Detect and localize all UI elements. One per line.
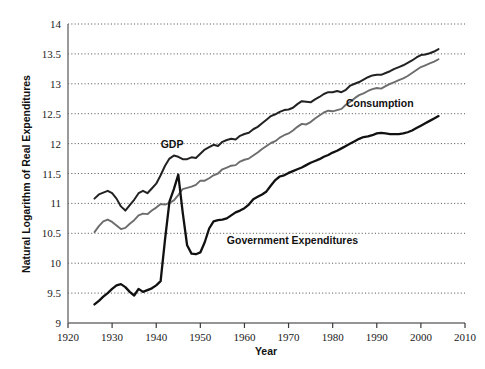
x-tick-label: 2010 bbox=[454, 331, 477, 343]
series-label-gdp: GDP bbox=[161, 138, 184, 150]
y-axis-title: Natural Logarithm of Real Expenditures bbox=[20, 75, 32, 273]
y-tick-label: 11 bbox=[50, 197, 61, 209]
x-tick-label: 1950 bbox=[189, 331, 212, 343]
axis-ticks-group bbox=[68, 323, 465, 328]
x-tick-label: 1930 bbox=[101, 331, 124, 343]
y-tick-label: 14 bbox=[50, 18, 62, 30]
series-annotations-group: GDPConsumptionGovernment Expenditures bbox=[161, 97, 414, 247]
y-tick-label: 11.5 bbox=[42, 168, 61, 180]
y-tick-label: 12.5 bbox=[42, 108, 62, 120]
series-line-gdp bbox=[94, 49, 438, 210]
y-tick-labels-group: 99.51010.51111.51212.51313.514 bbox=[42, 18, 62, 329]
x-tick-label: 1920 bbox=[57, 331, 80, 343]
series-line-consumption bbox=[94, 59, 438, 232]
y-tick-label: 10 bbox=[50, 257, 62, 269]
series-label-government-expenditures: Government Expenditures bbox=[227, 234, 358, 246]
chart-figure: 99.51010.51111.51212.51313.514 192019301… bbox=[0, 0, 485, 369]
data-series-group bbox=[94, 49, 438, 304]
chart-canvas: 99.51010.51111.51212.51313.514 192019301… bbox=[0, 0, 485, 369]
x-axis-title: Year bbox=[255, 345, 277, 357]
y-tick-label: 12 bbox=[50, 138, 61, 150]
y-tick-label: 13.5 bbox=[42, 48, 62, 60]
y-tick-label: 13 bbox=[50, 78, 62, 90]
y-tick-label: 9.5 bbox=[47, 287, 61, 299]
series-label-consumption: Consumption bbox=[346, 97, 414, 109]
x-tick-label: 1960 bbox=[233, 331, 256, 343]
y-tick-label: 9 bbox=[56, 317, 62, 329]
x-tick-label: 1940 bbox=[145, 331, 168, 343]
x-tick-label: 1970 bbox=[278, 331, 301, 343]
y-tick-label: 10.5 bbox=[42, 227, 62, 239]
series-line-government-expenditures bbox=[94, 116, 438, 304]
x-tick-label: 1980 bbox=[322, 331, 345, 343]
x-tick-label: 1990 bbox=[366, 331, 389, 343]
x-tick-labels-group: 1920193019401950196019701980199020002010 bbox=[57, 331, 477, 343]
x-tick-label: 2000 bbox=[410, 331, 433, 343]
